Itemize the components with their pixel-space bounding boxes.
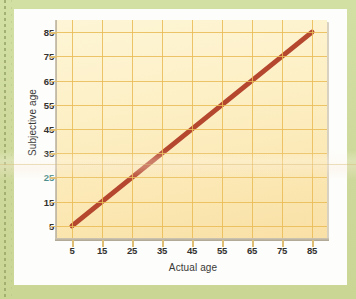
perforation-dashed-line bbox=[4, 0, 6, 299]
x-axis-tick-mark bbox=[132, 240, 134, 247]
perforation-dashed-line-secondary bbox=[11, 0, 12, 299]
figure-card: Subjective age 51525354555657585 5152535… bbox=[14, 9, 347, 285]
y-axis-tick-label: 75 bbox=[20, 51, 54, 62]
gridline-horizontal bbox=[57, 32, 327, 33]
x-axis-tick-mark bbox=[222, 240, 224, 247]
y-axis-tick-label: 65 bbox=[20, 75, 54, 86]
gridline-horizontal bbox=[57, 56, 327, 57]
y-axis-tick-mark bbox=[50, 226, 57, 228]
y-axis-tick-label: 35 bbox=[20, 148, 54, 159]
y-axis-tick-label: 15 bbox=[20, 196, 54, 207]
gridline-horizontal bbox=[57, 226, 327, 227]
y-axis-tick-mark bbox=[50, 105, 57, 107]
x-axis-title: Actual age bbox=[58, 262, 328, 273]
y-axis-tick-label: 25 bbox=[20, 172, 54, 183]
x-axis-tick-mark bbox=[102, 240, 104, 247]
gridline-horizontal bbox=[57, 81, 327, 82]
y-axis-tick-mark bbox=[50, 177, 57, 179]
gridline-horizontal bbox=[57, 105, 327, 106]
y-axis-tick-mark bbox=[50, 202, 57, 204]
y-axis-tick-label: 45 bbox=[20, 124, 54, 135]
x-axis-tick-labels: 51525354555657585 bbox=[58, 245, 330, 259]
figure-page: Subjective age 51525354555657585 5152535… bbox=[0, 0, 356, 299]
line-chart: Subjective age 51525354555657585 5152535… bbox=[14, 9, 347, 285]
y-axis-tick-label: 55 bbox=[20, 99, 54, 110]
x-axis-tick-mark bbox=[72, 240, 74, 247]
y-axis-tick-label: 85 bbox=[20, 27, 54, 38]
y-axis-tick-mark bbox=[50, 81, 57, 83]
y-axis-tick-mark bbox=[50, 129, 57, 131]
y-axis-tick-label: 5 bbox=[20, 220, 54, 231]
x-axis-tick-mark bbox=[282, 240, 284, 247]
plot-area bbox=[57, 20, 327, 238]
x-axis-tick-mark bbox=[252, 240, 254, 247]
gridline-horizontal bbox=[57, 129, 327, 130]
y-axis-tick-labels: 51525354555657585 bbox=[20, 17, 54, 233]
x-axis-tick-mark bbox=[192, 240, 194, 247]
y-axis-tick-mark bbox=[50, 56, 57, 58]
x-axis-tick-mark bbox=[312, 240, 314, 247]
x-axis-tick-mark bbox=[162, 240, 164, 247]
y-axis-tick-mark bbox=[50, 153, 57, 155]
gridline-horizontal bbox=[57, 177, 327, 178]
gridline-horizontal bbox=[57, 153, 327, 154]
y-axis-tick-mark bbox=[50, 32, 57, 34]
gridline-horizontal bbox=[57, 202, 327, 203]
